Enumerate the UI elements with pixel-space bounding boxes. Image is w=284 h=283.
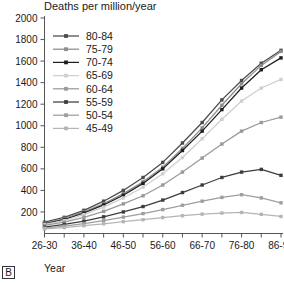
data-point-marker xyxy=(260,68,263,71)
legend-item-70-74: 70-74 xyxy=(53,56,113,68)
data-point-marker xyxy=(161,183,164,186)
line-chart: 200400600800100012001400160018002000 26-… xyxy=(0,0,284,283)
data-point-marker xyxy=(102,210,105,213)
y-axis: 200400600800100012001400160018002000 xyxy=(15,13,44,234)
series-line xyxy=(45,79,282,224)
data-point-marker xyxy=(141,176,144,179)
data-point-marker xyxy=(63,226,66,229)
data-point-marker xyxy=(122,189,125,192)
legend-item-80-84: 80-84 xyxy=(53,30,113,42)
data-point-marker xyxy=(260,196,263,199)
data-point-marker xyxy=(161,198,164,201)
data-point-marker xyxy=(279,174,282,177)
legend-label: 80-84 xyxy=(86,30,113,42)
legend-marker xyxy=(64,61,68,65)
data-point-marker xyxy=(122,202,125,205)
data-point-marker xyxy=(220,142,223,145)
series-line xyxy=(45,50,282,222)
legend-item-65-69: 65-69 xyxy=(53,69,113,81)
data-point-marker xyxy=(141,194,144,197)
legend-label: 60-64 xyxy=(86,83,113,95)
data-point-marker xyxy=(181,214,184,217)
data-point-marker xyxy=(161,161,164,164)
data-point-marker xyxy=(240,129,243,132)
data-point-marker xyxy=(200,199,203,202)
data-point-marker xyxy=(141,212,144,215)
data-point-marker xyxy=(102,215,105,218)
series-80-84 xyxy=(43,49,283,224)
data-point-marker xyxy=(220,118,223,121)
legend-label: 50-54 xyxy=(86,109,113,121)
data-point-marker xyxy=(260,86,263,89)
x-tick-label: 86-90 xyxy=(268,240,284,251)
data-point-marker xyxy=(279,78,282,81)
x-tick-label: 76-80 xyxy=(229,240,255,251)
data-point-marker xyxy=(161,167,164,170)
y-tick-label: 400 xyxy=(21,185,38,196)
y-tick-label: 1400 xyxy=(15,77,38,88)
legend-label: 45-49 xyxy=(86,122,113,134)
data-point-marker xyxy=(200,156,203,159)
series-65-69 xyxy=(43,78,283,226)
data-point-marker xyxy=(102,205,105,208)
data-point-marker xyxy=(279,115,282,118)
data-point-marker xyxy=(200,183,203,186)
legend-label: 65-69 xyxy=(86,69,113,81)
legend-item-50-54: 50-54 xyxy=(53,109,113,121)
x-tick-label: 36-40 xyxy=(71,240,97,251)
y-tick-label: 800 xyxy=(21,142,38,153)
legend-marker xyxy=(64,87,68,91)
data-point-marker xyxy=(279,215,282,218)
data-point-marker xyxy=(200,137,203,140)
data-point-marker xyxy=(220,108,223,111)
data-point-marker xyxy=(43,227,46,230)
data-point-marker xyxy=(240,170,243,173)
panel-label: B xyxy=(2,266,15,279)
data-point-marker xyxy=(240,211,243,214)
legend-label: 75-79 xyxy=(86,43,113,55)
y-tick-label: 1000 xyxy=(15,120,38,131)
legend-label: 70-74 xyxy=(86,56,113,68)
figure-panel-b: Deaths per million/year 2004006008001000… xyxy=(0,0,284,283)
data-point-marker xyxy=(220,176,223,179)
y-tick-label: 1600 xyxy=(15,56,38,67)
data-point-marker xyxy=(220,98,223,101)
data-point-marker xyxy=(82,216,85,219)
data-point-marker xyxy=(181,170,184,173)
legend: 80-8475-7970-7465-6960-6455-5950-5445-49 xyxy=(53,30,113,134)
data-point-marker xyxy=(161,208,164,211)
data-point-marker xyxy=(279,201,282,204)
x-tick-label: 56-60 xyxy=(150,240,176,251)
data-point-marker xyxy=(279,50,282,53)
data-point-marker xyxy=(181,156,184,159)
data-point-marker xyxy=(200,212,203,215)
data-point-marker xyxy=(122,210,125,213)
y-tick-label: 600 xyxy=(21,163,38,174)
data-point-marker xyxy=(181,149,184,152)
legend-label: 55-59 xyxy=(86,96,113,108)
data-point-marker xyxy=(181,191,184,194)
data-point-marker xyxy=(141,185,144,188)
legend-marker xyxy=(64,100,68,104)
legend-marker xyxy=(64,74,68,78)
data-point-marker xyxy=(220,104,223,107)
data-point-marker xyxy=(141,205,144,208)
x-tick-label: 26-30 xyxy=(32,240,58,251)
y-tick-label: 1800 xyxy=(15,34,38,45)
legend-item-60-64: 60-64 xyxy=(53,83,113,95)
series-55-59 xyxy=(43,168,283,229)
x-axis-title: Year xyxy=(44,262,66,274)
legend-item-45-49: 45-49 xyxy=(53,122,113,134)
data-point-marker xyxy=(122,220,125,223)
data-point-marker xyxy=(240,99,243,102)
data-point-marker xyxy=(82,224,85,227)
data-point-marker xyxy=(141,218,144,221)
data-point-marker xyxy=(220,211,223,214)
x-axis: 26-3036-4046-5056-6066-7076-8086-90 xyxy=(32,234,284,251)
x-tick-label: 66-70 xyxy=(189,240,215,251)
y-tick-label: 1200 xyxy=(15,99,38,110)
y-tick-label: 200 xyxy=(21,207,38,218)
data-point-marker xyxy=(200,121,203,124)
legend-marker xyxy=(64,127,68,131)
data-point-marker xyxy=(240,79,243,82)
